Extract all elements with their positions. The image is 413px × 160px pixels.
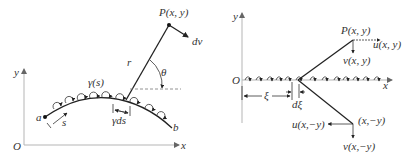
s-tick <box>47 123 51 128</box>
vortex-strength-label: γ(s) <box>88 76 104 89</box>
position-label: ξ <box>264 89 269 102</box>
upper-v-label: v(x, y) <box>343 54 371 67</box>
left-origin-label: O <box>13 140 21 152</box>
induced-velocity-label: dv <box>192 35 203 47</box>
curve-start-label: a <box>36 111 42 123</box>
dxi-dimension: dξ <box>286 84 305 111</box>
xi-dimension: ξ <box>242 82 292 102</box>
right-panel: y x O ξ <box>232 10 401 153</box>
arclength-label: s <box>62 116 66 128</box>
lower-point-label: (x,−y) <box>358 114 386 127</box>
left-x-axis-label: x <box>180 139 186 151</box>
left-panel: y x O a b s γ(s) <box>13 6 203 152</box>
curve-end-label: b <box>173 121 179 133</box>
element-label: dξ <box>292 98 303 111</box>
point-p-label: P(x, y) <box>158 6 189 19</box>
point-a-dot <box>43 115 47 119</box>
right-y-axis-label: y <box>232 10 238 22</box>
right-origin-label: O <box>232 74 240 86</box>
induced-velocity-arrow <box>169 25 188 37</box>
vortex-loops <box>53 92 165 119</box>
radius-label: r <box>127 56 132 68</box>
upper-point-label: P(x, y) <box>340 24 371 37</box>
lower-u-label: u(x,−y) <box>292 118 325 131</box>
angle-label: θ <box>161 66 167 78</box>
upper-u-label: u(x, y) <box>373 38 401 51</box>
left-y-axis-label: y <box>13 66 19 78</box>
element-strength-label: γds <box>112 114 126 126</box>
right-x-axis-label: x <box>382 79 388 91</box>
lower-v-label: v(x,−y) <box>343 140 375 153</box>
vortex-sheet-diagram: y x O a b s γ(s) <box>0 0 413 160</box>
